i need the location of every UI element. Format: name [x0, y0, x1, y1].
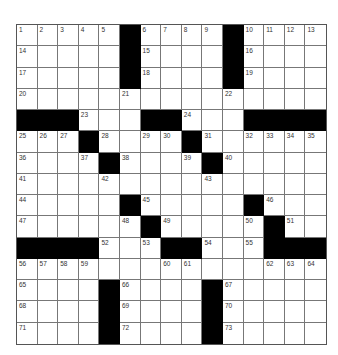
grid-cell[interactable] — [264, 89, 285, 110]
grid-cell[interactable]: 24 — [182, 110, 203, 131]
grid-cell[interactable] — [161, 280, 182, 301]
grid-cell[interactable] — [38, 174, 59, 195]
grid-cell[interactable] — [58, 174, 79, 195]
grid-cell[interactable] — [223, 131, 244, 152]
grid-cell[interactable] — [285, 174, 306, 195]
grid-cell[interactable]: 54 — [202, 238, 223, 259]
grid-cell[interactable]: 34 — [285, 131, 306, 152]
grid-cell[interactable]: 21 — [120, 89, 141, 110]
grid-cell[interactable] — [244, 89, 265, 110]
grid-cell[interactable]: 62 — [264, 259, 285, 280]
grid-cell[interactable]: 39 — [182, 153, 203, 174]
grid-cell[interactable] — [223, 110, 244, 131]
grid-cell[interactable]: 52 — [99, 238, 120, 259]
grid-cell[interactable] — [120, 259, 141, 280]
grid-cell[interactable]: 22 — [223, 89, 244, 110]
grid-cell[interactable]: 27 — [58, 131, 79, 152]
grid-cell[interactable] — [141, 153, 162, 174]
grid-cell[interactable] — [120, 110, 141, 131]
grid-cell[interactable]: 29 — [141, 131, 162, 152]
grid-cell[interactable] — [161, 153, 182, 174]
grid-cell[interactable] — [244, 301, 265, 322]
grid-cell[interactable]: 50 — [244, 216, 265, 237]
grid-cell[interactable] — [305, 153, 326, 174]
grid-cell[interactable]: 10 — [244, 25, 265, 46]
grid-cell[interactable]: 36 — [17, 153, 38, 174]
grid-cell[interactable] — [223, 195, 244, 216]
grid-cell[interactable] — [202, 259, 223, 280]
grid-cell[interactable]: 44 — [17, 195, 38, 216]
grid-cell[interactable] — [182, 280, 203, 301]
grid-cell[interactable]: 37 — [79, 153, 100, 174]
grid-cell[interactable]: 53 — [141, 238, 162, 259]
grid-cell[interactable] — [58, 301, 79, 322]
grid-cell[interactable] — [244, 280, 265, 301]
grid-cell[interactable] — [223, 216, 244, 237]
grid-cell[interactable] — [305, 323, 326, 344]
grid-cell[interactable] — [202, 89, 223, 110]
grid-cell[interactable]: 13 — [305, 25, 326, 46]
grid-cell[interactable] — [79, 89, 100, 110]
grid-cell[interactable] — [58, 280, 79, 301]
grid-cell[interactable] — [285, 46, 306, 67]
grid-cell[interactable]: 66 — [120, 280, 141, 301]
grid-cell[interactable] — [305, 89, 326, 110]
grid-cell[interactable]: 43 — [202, 174, 223, 195]
grid-cell[interactable]: 15 — [141, 46, 162, 67]
grid-cell[interactable] — [38, 68, 59, 89]
grid-cell[interactable]: 20 — [17, 89, 38, 110]
grid-cell[interactable] — [305, 174, 326, 195]
grid-cell[interactable]: 23 — [79, 110, 100, 131]
grid-cell[interactable] — [285, 280, 306, 301]
grid-cell[interactable]: 73 — [223, 323, 244, 344]
grid-cell[interactable]: 14 — [17, 46, 38, 67]
grid-cell[interactable]: 61 — [182, 259, 203, 280]
grid-cell[interactable] — [182, 89, 203, 110]
grid-cell[interactable] — [202, 68, 223, 89]
grid-cell[interactable] — [182, 46, 203, 67]
grid-cell[interactable]: 19 — [244, 68, 265, 89]
grid-cell[interactable] — [305, 68, 326, 89]
grid-cell[interactable] — [79, 46, 100, 67]
grid-cell[interactable]: 72 — [120, 323, 141, 344]
grid-cell[interactable] — [99, 195, 120, 216]
grid-cell[interactable]: 26 — [38, 131, 59, 152]
grid-cell[interactable] — [120, 131, 141, 152]
grid-cell[interactable]: 69 — [120, 301, 141, 322]
grid-cell[interactable] — [182, 174, 203, 195]
grid-cell[interactable] — [202, 216, 223, 237]
grid-cell[interactable] — [141, 259, 162, 280]
grid-cell[interactable] — [58, 153, 79, 174]
grid-cell[interactable]: 17 — [17, 68, 38, 89]
grid-cell[interactable] — [161, 195, 182, 216]
grid-cell[interactable] — [244, 174, 265, 195]
grid-cell[interactable] — [285, 323, 306, 344]
grid-cell[interactable] — [305, 46, 326, 67]
grid-cell[interactable] — [141, 280, 162, 301]
grid-cell[interactable] — [244, 323, 265, 344]
grid-cell[interactable] — [285, 301, 306, 322]
grid-cell[interactable] — [99, 89, 120, 110]
grid-cell[interactable] — [161, 174, 182, 195]
grid-cell[interactable] — [99, 259, 120, 280]
grid-cell[interactable] — [141, 174, 162, 195]
grid-cell[interactable]: 58 — [58, 259, 79, 280]
grid-cell[interactable] — [38, 323, 59, 344]
grid-cell[interactable]: 48 — [120, 216, 141, 237]
grid-cell[interactable] — [285, 68, 306, 89]
grid-cell[interactable] — [38, 153, 59, 174]
grid-cell[interactable]: 63 — [285, 259, 306, 280]
grid-cell[interactable]: 16 — [244, 46, 265, 67]
grid-cell[interactable]: 45 — [141, 195, 162, 216]
grid-cell[interactable] — [182, 195, 203, 216]
grid-cell[interactable] — [38, 280, 59, 301]
grid-cell[interactable] — [79, 195, 100, 216]
grid-cell[interactable] — [38, 46, 59, 67]
grid-cell[interactable]: 49 — [161, 216, 182, 237]
grid-cell[interactable] — [58, 46, 79, 67]
grid-cell[interactable] — [182, 68, 203, 89]
grid-cell[interactable] — [305, 280, 326, 301]
grid-cell[interactable]: 18 — [141, 68, 162, 89]
grid-cell[interactable]: 67 — [223, 280, 244, 301]
grid-cell[interactable] — [79, 323, 100, 344]
